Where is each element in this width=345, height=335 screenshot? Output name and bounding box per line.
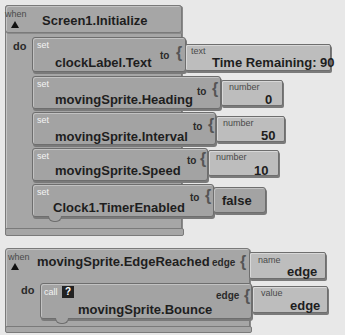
- param-name-value[interactable]: edge: [287, 264, 317, 279]
- set-label: set: [37, 40, 49, 50]
- when-label: when: [5, 9, 27, 19]
- property-name: movingSprite.Heading: [55, 92, 193, 107]
- param-label: edge: [212, 257, 235, 268]
- event-name: Screen1.Initialize: [42, 13, 148, 28]
- socket-connector-icon: {: [240, 253, 246, 271]
- value-type-label: number: [229, 82, 260, 92]
- boolean-value[interactable]: false: [222, 193, 252, 208]
- to-label: to: [187, 155, 196, 166]
- to-label: to: [190, 192, 199, 203]
- value-type-label: number: [223, 118, 254, 128]
- socket-connector-icon: {: [205, 187, 211, 205]
- to-label: to: [193, 121, 202, 132]
- socket-connector-icon: {: [244, 287, 250, 305]
- socket-connector-icon: {: [176, 44, 182, 62]
- arg-value[interactable]: edge: [290, 298, 320, 313]
- event1-bottom-bar: [5, 228, 184, 236]
- to-label: to: [160, 50, 169, 61]
- number-value[interactable]: 10: [254, 163, 268, 178]
- event2-bottom-bar: [5, 326, 252, 333]
- call-label: call: [44, 287, 58, 297]
- value-type-label: number: [216, 152, 247, 162]
- number-value[interactable]: 0: [265, 92, 272, 107]
- socket-connector-icon: {: [212, 80, 218, 98]
- property-name: Clock1.TimerEnabled: [53, 200, 185, 215]
- collapse-triangle-icon[interactable]: [11, 21, 19, 28]
- do-label: do: [21, 284, 34, 296]
- socket-connector-icon: {: [208, 116, 214, 134]
- help-icon[interactable]: ?: [62, 286, 74, 298]
- set-label: set: [37, 115, 49, 125]
- do-label: do: [13, 40, 26, 52]
- set-label: set: [37, 151, 49, 161]
- collapse-triangle-icon[interactable]: [11, 263, 19, 270]
- method-name: movingSprite.Bounce: [78, 302, 212, 317]
- value-type-label: text: [191, 46, 206, 56]
- event-name: movingSprite.EdgeReached: [37, 254, 210, 269]
- set-label: set: [37, 79, 49, 89]
- param-type-label: name: [258, 255, 281, 265]
- property-name: clockLabel.Text: [55, 55, 152, 70]
- arg-label: edge: [216, 290, 239, 301]
- number-value[interactable]: 50: [261, 128, 275, 143]
- set-label: set: [37, 187, 49, 197]
- socket-connector-icon: {: [200, 150, 206, 168]
- arg-type-label: value: [261, 288, 283, 298]
- to-label: to: [197, 86, 206, 97]
- property-name: movingSprite.Speed: [55, 163, 181, 178]
- text-value[interactable]: Time Remaining: 90: [212, 55, 335, 70]
- when-label: when: [8, 252, 30, 262]
- property-name: movingSprite.Interval: [55, 129, 188, 144]
